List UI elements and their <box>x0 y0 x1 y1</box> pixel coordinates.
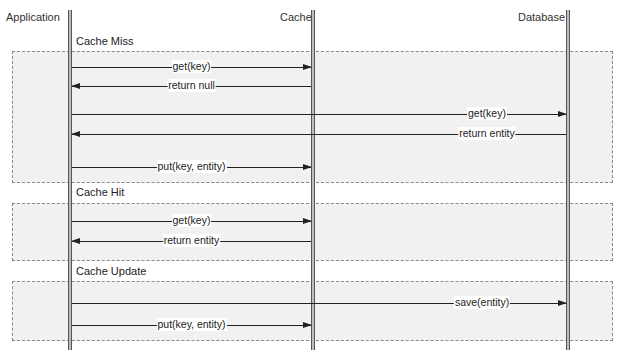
message-get-key-app-to-db: get(key) <box>72 114 566 115</box>
lifeline-database <box>566 10 570 350</box>
frame-title-cache-update: Cache Update <box>76 265 146 277</box>
message-get-key-app-to-cache: get(key) <box>72 221 311 222</box>
message-label: put(key, entity) <box>156 160 226 173</box>
arrow-right-icon <box>303 218 312 224</box>
message-label: get(key) <box>172 60 212 73</box>
message-put-key-entity-app-to-cache: put(key, entity) <box>72 325 311 326</box>
message-label: get(key) <box>172 214 212 227</box>
message-put-key-entity-app-to-cache: put(key, entity) <box>72 167 311 168</box>
message-label: save(entity) <box>454 296 510 309</box>
message-label: put(key, entity) <box>156 318 226 331</box>
message-label: get(key) <box>467 107 507 120</box>
message-save-entity-app-to-db: save(entity) <box>72 303 566 304</box>
message-return-null-cache-to-app: return null <box>72 86 311 87</box>
message-get-key-app-to-cache: get(key) <box>72 67 311 68</box>
message-return-entity-cache-to-app: return entity <box>72 241 311 242</box>
frame-title-cache-hit: Cache Hit <box>76 186 124 198</box>
message-return-entity-db-to-app: return entity <box>72 134 566 135</box>
arrow-right-icon <box>303 164 312 170</box>
message-label: return entity <box>163 234 220 247</box>
arrow-left-icon <box>71 131 80 137</box>
arrow-left-icon <box>71 83 80 89</box>
frame-title-cache-miss: Cache Miss <box>76 35 133 47</box>
message-label: return null <box>167 79 216 92</box>
arrow-right-icon <box>558 111 567 117</box>
message-label: return entity <box>458 127 515 140</box>
arrow-right-icon <box>303 322 312 328</box>
lifeline-application <box>68 10 72 350</box>
participant-database-label: Database <box>518 10 565 24</box>
lifeline-cache <box>311 10 315 350</box>
participant-application-label: Application <box>6 10 60 24</box>
participant-cache-label: Cache <box>280 10 312 24</box>
arrow-right-icon <box>303 64 312 70</box>
arrow-right-icon <box>558 300 567 306</box>
arrow-left-icon <box>71 238 80 244</box>
